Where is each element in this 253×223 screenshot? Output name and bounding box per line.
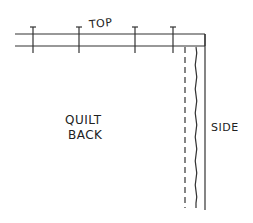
quilt-label: QUILT bbox=[65, 114, 102, 126]
pin-icon bbox=[30, 27, 36, 53]
back-label: BACK bbox=[68, 129, 102, 141]
pin-icon bbox=[132, 27, 138, 53]
wavy-raw-edge bbox=[195, 47, 197, 208]
pin-icon bbox=[170, 27, 176, 53]
side-edge bbox=[185, 34, 205, 210]
pin-icon bbox=[76, 27, 82, 53]
top-binding-strip bbox=[15, 34, 205, 46]
pin-markers bbox=[30, 27, 176, 53]
quilt-binding-diagram bbox=[0, 0, 253, 223]
top-label: TOP bbox=[88, 17, 113, 30]
side-label: SIDE bbox=[211, 122, 239, 133]
